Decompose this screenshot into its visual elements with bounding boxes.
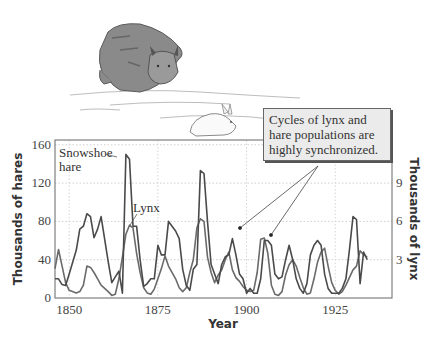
x-axis-ticks: 1850187519001925: [56, 302, 348, 317]
series-layer: [55, 154, 367, 295]
svg-text:160: 160: [32, 137, 52, 152]
lynx-hare-population-chart: 04080120160 369 1850187519001925 Year Th…: [0, 0, 427, 345]
svg-text:40: 40: [38, 252, 51, 267]
callout-pointers: [238, 166, 318, 237]
plot-frame: [55, 140, 392, 298]
label-snowshoe-hare: Snowshoe hare: [59, 145, 117, 174]
label-lynx: Lynx: [130, 200, 160, 225]
gridlines: [55, 140, 392, 298]
svg-text:Lynx: Lynx: [133, 200, 160, 215]
svg-text:0: 0: [45, 290, 52, 305]
svg-text:1875: 1875: [145, 302, 171, 317]
svg-text:Snowshoe: Snowshoe: [59, 145, 113, 160]
x-axis-title: Year: [207, 317, 238, 331]
svg-text:hare: hare: [59, 159, 82, 174]
svg-text:1850: 1850: [56, 302, 82, 317]
svg-text:80: 80: [38, 213, 51, 228]
svg-text:9: 9: [396, 175, 403, 190]
y-axis-right-title: Thousands of lynx: [407, 157, 421, 280]
svg-text:120: 120: [32, 175, 52, 190]
svg-text:3: 3: [396, 252, 403, 267]
synchronization-callout: Cycles of lynx and hare populations are …: [263, 108, 391, 161]
y-axis-left-title: Thousands of hares: [11, 153, 25, 286]
svg-text:1900: 1900: [234, 302, 260, 317]
svg-text:6: 6: [396, 213, 403, 228]
y-axis-right-ticks: 369: [396, 175, 403, 267]
y-axis-left-ticks: 04080120160: [32, 137, 52, 305]
svg-text:1925: 1925: [322, 302, 348, 317]
